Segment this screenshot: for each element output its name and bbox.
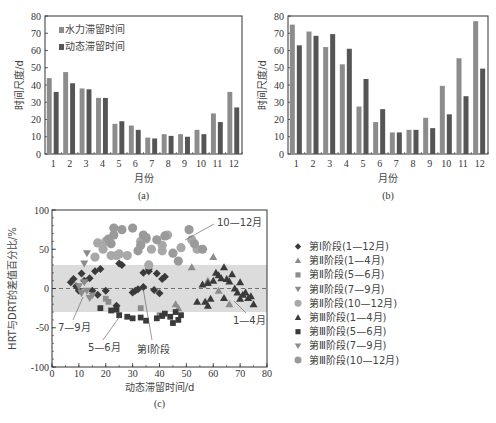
- bar: [70, 83, 75, 154]
- bar-chart-a: 01020304050607080123456789101112月份时间尺度/d…: [13, 11, 242, 203]
- triangle-down-marker: [295, 287, 301, 293]
- bar: [473, 21, 478, 154]
- bar: [162, 134, 167, 154]
- triangle-down-marker: [295, 344, 301, 350]
- triangle-up-marker: [209, 253, 217, 260]
- x-tick-label: 20: [101, 368, 111, 379]
- square-marker: [138, 305, 144, 311]
- bar: [314, 36, 319, 154]
- legend-label: 第Ⅲ阶段(7—9月): [309, 339, 387, 351]
- x-tick-label: 7: [149, 158, 154, 169]
- bar: [340, 64, 345, 154]
- square-marker: [108, 308, 114, 314]
- legend-label: 第Ⅲ阶段(5—6月): [309, 325, 387, 337]
- circle-marker: [176, 243, 185, 252]
- annotation-label: 1—4月: [233, 315, 266, 326]
- x-tick-label: 40: [155, 368, 165, 379]
- square-marker: [138, 315, 144, 321]
- bar: [129, 126, 134, 154]
- square-marker: [167, 314, 173, 320]
- x-tick-label: 0: [50, 368, 55, 379]
- x-tick-label: 5: [361, 158, 366, 169]
- circle-marker: [184, 225, 193, 234]
- square-marker: [178, 312, 184, 318]
- square-marker: [97, 305, 103, 311]
- circle-marker: [117, 225, 126, 234]
- legend-label: 第Ⅱ阶段(7—9月): [309, 283, 385, 295]
- circle-marker: [98, 245, 107, 254]
- legend-label: 第Ⅱ阶段(10—12月): [309, 297, 397, 309]
- y-axis-label: 时间尺度/d: [13, 60, 25, 110]
- legend-label: 第Ⅲ阶段(1—4月): [309, 311, 387, 323]
- x-tick-label: 1: [294, 158, 299, 169]
- y-tick-label: 80: [274, 11, 284, 22]
- circle-marker: [133, 246, 142, 255]
- x-tick-label: 8: [166, 158, 171, 169]
- bar: [195, 130, 200, 154]
- x-tick-label: 6: [377, 158, 382, 169]
- x-tick-label: 9: [182, 158, 187, 169]
- bar: [218, 122, 223, 154]
- x-axis-label: 月份: [378, 173, 398, 184]
- bar: [227, 92, 232, 154]
- circle-marker: [190, 239, 199, 248]
- square-marker: [124, 314, 130, 320]
- bar: [480, 69, 485, 154]
- square-marker: [173, 309, 179, 315]
- y-tick-label: 40: [31, 80, 41, 91]
- bar: [145, 138, 150, 154]
- y-tick-label: 30: [274, 97, 284, 108]
- y-tick-label: -100: [31, 362, 49, 373]
- scatter-chart-c: -100-500501000102030405060708010—12月7—9月…: [6, 205, 272, 411]
- circle-marker: [174, 256, 183, 265]
- bar: [63, 72, 68, 154]
- x-tick-label: 7: [394, 158, 399, 169]
- bar: [464, 96, 469, 154]
- bar: [330, 34, 335, 154]
- square-marker: [106, 299, 112, 305]
- bar: [390, 132, 395, 154]
- bar: [87, 89, 92, 154]
- x-tick-label: 2: [311, 158, 316, 169]
- y-tick-label: 0: [36, 149, 41, 160]
- y-tick-label: 20: [274, 114, 284, 125]
- x-axis-label: 动态滞留时间/d: [125, 381, 195, 393]
- y-tick-label: 100: [34, 205, 49, 216]
- x-tick-label: 11: [213, 158, 223, 169]
- circle-marker: [168, 249, 177, 258]
- chart-caption: (b): [382, 190, 394, 202]
- bar: [152, 138, 157, 154]
- x-tick-label: 12: [475, 158, 485, 169]
- x-tick-label: 80: [262, 368, 272, 379]
- square-marker: [114, 307, 120, 313]
- x-tick-label: 6: [133, 158, 138, 169]
- x-tick-label: 11: [458, 158, 468, 169]
- legend-label: 水力滞留时间: [65, 23, 125, 35]
- square-marker: [162, 311, 168, 317]
- annotation-label: 5—6月: [88, 342, 121, 353]
- bar: [169, 136, 174, 154]
- legend-c: 第Ⅰ阶段(1—12月)第Ⅱ阶段(1—4月)第Ⅱ阶段(5—6月)第Ⅱ阶段(7—9月…: [295, 240, 400, 366]
- y-tick-label: 10: [274, 131, 284, 142]
- bar: [211, 113, 216, 154]
- annotation-label: 10—12月: [217, 217, 262, 228]
- legend-swatch: [59, 44, 64, 50]
- bar: [297, 45, 302, 154]
- bar: [323, 47, 328, 154]
- bar: [357, 107, 362, 154]
- y-tick-label: 50: [274, 62, 284, 73]
- bar: [407, 130, 412, 154]
- bar: [185, 137, 190, 154]
- x-tick-label: 60: [208, 368, 218, 379]
- x-tick-label: 8: [411, 158, 416, 169]
- square-marker: [170, 320, 176, 326]
- bar: [364, 79, 369, 154]
- y-tick-label: 60: [31, 45, 41, 56]
- y-tick-label: 0: [44, 283, 49, 294]
- chart-caption: (c): [154, 398, 165, 410]
- y-tick-label: 70: [31, 28, 41, 39]
- x-tick-label: 2: [67, 158, 72, 169]
- circle-marker: [90, 253, 99, 262]
- y-tick-label: 10: [31, 131, 41, 142]
- bar: [307, 32, 312, 154]
